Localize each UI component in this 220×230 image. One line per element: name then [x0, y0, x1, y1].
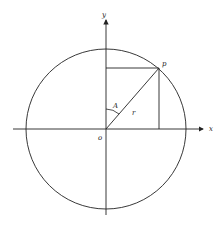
radius-label: r	[132, 109, 136, 117]
x-axis-label: x	[209, 125, 213, 133]
angle-label: A	[112, 102, 118, 110]
y-axis-label: y	[101, 11, 107, 19]
point-label: p	[162, 60, 167, 68]
origin-label: o	[98, 134, 102, 142]
circle-diagram: y x o p A r	[0, 0, 220, 230]
radius-line	[106, 68, 159, 129]
